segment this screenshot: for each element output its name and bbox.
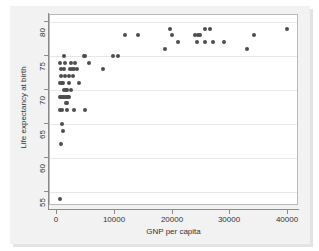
data-point xyxy=(203,40,207,44)
data-point xyxy=(176,40,180,44)
data-point xyxy=(252,33,256,37)
data-point xyxy=(195,40,199,44)
y-axis-line xyxy=(48,13,49,209)
plot-frame xyxy=(49,14,298,205)
y-tick-label: 80 xyxy=(38,20,47,46)
x-tick-label: 20000 xyxy=(150,215,194,224)
x-tick-mark xyxy=(172,210,173,214)
data-point xyxy=(208,27,212,31)
data-point xyxy=(65,101,69,105)
x-tick-label: 0 xyxy=(34,215,78,224)
y-axis-title: Life expectancy at birth xyxy=(19,38,28,178)
x-tick-mark xyxy=(229,210,230,214)
x-tick-mark xyxy=(287,210,288,214)
data-point xyxy=(69,88,73,92)
data-point xyxy=(198,33,202,37)
data-point xyxy=(222,40,226,44)
data-point xyxy=(101,67,105,71)
data-point xyxy=(60,122,64,126)
data-point xyxy=(67,81,71,85)
data-point xyxy=(60,108,64,112)
data-point xyxy=(67,95,71,99)
data-point xyxy=(116,54,120,58)
data-point xyxy=(61,81,65,85)
data-point xyxy=(62,67,66,71)
data-point xyxy=(285,27,289,31)
data-point xyxy=(203,27,207,31)
data-point xyxy=(62,54,66,58)
y-tick-label: 75 xyxy=(38,54,47,80)
gridline-y xyxy=(50,56,297,57)
plot-area xyxy=(50,15,297,204)
data-point xyxy=(59,142,63,146)
data-point xyxy=(87,61,91,65)
data-point xyxy=(58,61,62,65)
data-point xyxy=(72,108,76,112)
gridline-y xyxy=(50,90,297,91)
gridline-y xyxy=(50,158,297,159)
gridline-y xyxy=(50,22,297,23)
data-point xyxy=(123,33,127,37)
data-point xyxy=(61,129,65,133)
x-tick-mark xyxy=(56,210,57,214)
data-point xyxy=(63,61,67,65)
data-point xyxy=(211,40,215,44)
data-point xyxy=(58,197,62,201)
data-point xyxy=(71,74,75,78)
x-axis-line xyxy=(48,209,299,210)
x-tick-mark xyxy=(114,210,115,214)
x-tick-label: 10000 xyxy=(92,215,136,224)
y-tick-label: 65 xyxy=(38,122,47,148)
data-point xyxy=(75,67,79,71)
data-point xyxy=(83,54,87,58)
data-point xyxy=(73,61,77,65)
x-tick-label: 40000 xyxy=(265,215,309,224)
x-tick-label: 30000 xyxy=(207,215,251,224)
y-tick-label: 60 xyxy=(38,156,47,182)
data-point xyxy=(170,33,174,37)
data-point xyxy=(245,47,249,51)
data-point xyxy=(168,27,172,31)
scatter-plot-figure: 556065707580 010000200003000040000 Life … xyxy=(0,0,319,251)
data-point xyxy=(83,108,87,112)
x-axis-title: GNP per capita xyxy=(49,227,298,236)
data-point xyxy=(163,47,167,51)
data-point xyxy=(65,108,69,112)
y-tick-label: 70 xyxy=(38,88,47,114)
gridline-y xyxy=(50,124,297,125)
data-point xyxy=(77,81,81,85)
y-tick-label: 55 xyxy=(38,190,47,216)
gridline-y xyxy=(50,192,297,193)
data-point xyxy=(136,33,140,37)
data-point xyxy=(111,54,115,58)
